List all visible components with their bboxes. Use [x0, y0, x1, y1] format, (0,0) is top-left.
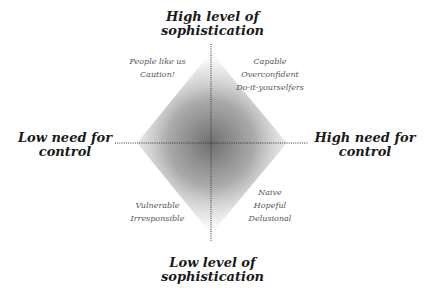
axis-label-right-line-1: High need for — [305, 131, 425, 145]
quadrant-top-left-line-2: Caution! — [115, 68, 200, 81]
quadrant-top-right-line-1: Capable — [225, 55, 315, 68]
axis-label-left: Low need for control — [10, 131, 120, 159]
axis-label-top: High level of sophistication — [150, 10, 275, 38]
axis-label-bottom: Low level of sophistication — [150, 256, 275, 284]
quadrant-bottom-right-line-2: Hopeful — [230, 199, 310, 212]
quadrant-top-right-line-3: Do-it-yourselfers — [225, 81, 315, 94]
quadrant-diagram: High level of sophistication Low level o… — [0, 0, 425, 295]
axis-label-right-line-2: control — [305, 145, 425, 159]
axis-label-top-line-2: sophistication — [150, 24, 275, 38]
axis-label-bottom-line-2: sophistication — [150, 270, 275, 284]
quadrant-top-left: People like us Caution! — [115, 55, 200, 81]
quadrant-bottom-right: Naive Hopeful Delusional — [230, 186, 310, 225]
axis-label-left-line-1: Low need for — [10, 131, 120, 145]
axis-label-left-line-2: control — [10, 145, 120, 159]
quadrant-bottom-right-line-3: Delusional — [230, 212, 310, 225]
axis-label-right: High need for control — [305, 131, 425, 159]
quadrant-bottom-left: Vulnerable Irresponsible — [115, 199, 200, 225]
quadrant-bottom-left-line-2: Irresponsible — [115, 212, 200, 225]
quadrant-bottom-left-line-1: Vulnerable — [115, 199, 200, 212]
quadrant-top-right-line-2: Overconfident — [225, 68, 315, 81]
axis-label-top-line-1: High level of — [150, 10, 275, 24]
quadrant-top-right: Capable Overconfident Do-it-yourselfers — [225, 55, 315, 94]
axis-label-bottom-line-1: Low level of — [150, 256, 275, 270]
quadrant-top-left-line-1: People like us — [115, 55, 200, 68]
quadrant-bottom-right-line-1: Naive — [230, 186, 310, 199]
